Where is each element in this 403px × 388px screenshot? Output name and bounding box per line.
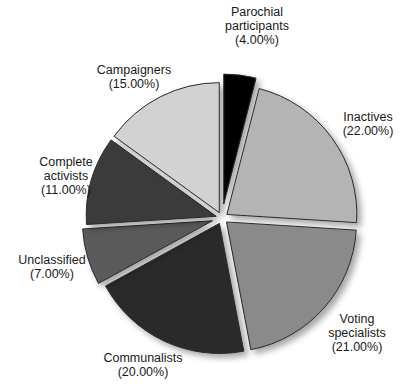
label-text: specialists — [328, 326, 386, 340]
label-percent: (20.00%) — [103, 365, 182, 379]
label-text: activists — [39, 169, 93, 183]
label-percent: (11.00%) — [39, 183, 93, 197]
label-percent: (4.00%) — [225, 33, 289, 47]
label-percent: (7.00%) — [18, 267, 85, 281]
label-unclassified: Unclassified(7.00%) — [18, 253, 85, 281]
label-percent: (21.00%) — [328, 340, 386, 354]
label-inactives: Inactives(22.00%) — [343, 110, 394, 138]
label-text: Inactives — [343, 110, 394, 124]
label-text: Voting — [328, 312, 386, 326]
label-text: Complete — [39, 155, 93, 169]
label-complete-activists: Completeactivists(11.00%) — [39, 155, 93, 197]
label-text: Unclassified — [18, 253, 85, 267]
label-parochial-participants: Parochialparticipants(4.00%) — [225, 5, 289, 47]
label-percent: (22.00%) — [343, 124, 394, 138]
label-text: Parochial — [225, 5, 289, 19]
label-voting-specialists: Votingspecialists(21.00%) — [328, 312, 386, 354]
label-text: participants — [225, 19, 289, 33]
pie-slices — [83, 74, 357, 353]
label-campaigners: Campaigners(15.00%) — [97, 63, 171, 91]
label-text: Campaigners — [97, 63, 171, 77]
label-text: Communalists — [103, 351, 182, 365]
label-percent: (15.00%) — [97, 77, 171, 91]
label-communalists: Communalists(20.00%) — [103, 351, 182, 379]
